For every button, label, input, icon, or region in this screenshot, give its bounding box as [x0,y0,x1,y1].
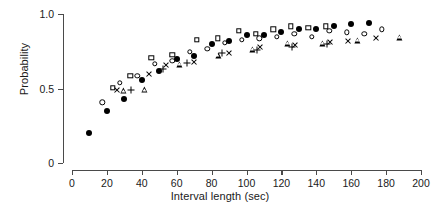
data-point-filled-circle [104,108,110,114]
x-tick [386,170,387,175]
x-tick [142,170,143,175]
data-point-filled-circle [209,41,215,47]
data-point-open-square [288,24,293,29]
data-point-cross [226,49,233,56]
data-point-plus [159,66,166,73]
data-point-open-square [236,28,241,33]
data-point-filled-circle [226,38,232,44]
y-tick [58,89,63,90]
data-point-triangle [121,88,127,94]
data-point-open-circle [239,37,244,42]
x-tick [316,170,317,175]
data-point-open-circle [204,46,209,51]
y-axis-line [63,14,64,163]
data-point-filled-circle [296,26,302,32]
scatter-plot-figure: Probability Interval length (sec) 00.51.… [0,0,440,210]
data-point-filled-circle [313,26,319,32]
data-point-filled-circle [244,32,250,38]
data-point-open-circle [309,34,314,39]
data-point-open-square [170,52,175,57]
y-tick [58,14,63,15]
data-point-open-circle [222,40,227,45]
x-tick [351,170,352,175]
triangle-inner [122,89,126,92]
x-tick [72,170,73,175]
triangle-inner [355,39,359,42]
data-point-open-circle [152,61,157,66]
data-point-triangle [355,37,361,43]
x-tick [247,170,248,175]
data-point-open-square [128,73,133,78]
y-tick-label: 1.0 [14,8,54,20]
x-tick [421,170,422,175]
data-point-filled-circle [139,77,145,83]
data-point-plus [253,46,260,53]
data-point-open-circle [274,34,279,39]
data-point-plus [219,49,226,56]
y-tick-label: 0 [14,157,54,169]
data-point-filled-circle [86,130,92,136]
x-tick [212,170,213,175]
triangle-inner [397,36,401,39]
data-point-plus [288,43,295,50]
data-point-open-circle [100,100,105,105]
x-tick [107,170,108,175]
data-point-plus [323,40,330,47]
data-point-open-square [215,36,220,41]
y-tick-label: 0.5 [14,83,54,95]
data-point-filled-circle [331,23,337,29]
data-point-cross [344,37,351,44]
data-point-cross [145,70,152,77]
data-point-open-circle [292,31,297,36]
data-point-triangle [142,86,148,92]
data-point-open-square [149,55,154,60]
data-point-open-square [194,37,199,42]
data-point-open-circle [344,30,349,35]
data-point-open-square [271,27,276,32]
data-point-plus [128,86,135,93]
data-point-filled-circle [261,32,267,38]
data-point-open-square [323,24,328,29]
data-point-filled-circle [278,29,284,35]
x-tick-label: 200 [401,177,440,189]
data-point-open-circle [170,58,175,63]
triangle-inner [177,63,181,66]
data-point-cross [191,58,198,65]
data-point-triangle [177,61,183,67]
data-point-filled-circle [121,96,127,102]
y-tick [58,163,63,164]
data-point-plus [184,60,191,67]
data-point-filled-circle [348,21,354,27]
data-point-cross [372,34,379,41]
data-point-open-square [253,31,258,36]
x-tick [281,170,282,175]
y-axis-label: Probability [18,9,30,129]
triangle-inner [142,88,146,91]
data-point-open-circle [361,31,366,36]
x-axis-label: Interval length (sec) [0,190,440,202]
data-point-filled-circle [366,20,372,26]
x-tick [177,170,178,175]
data-point-open-circle [379,27,384,32]
data-point-open-circle [117,80,122,85]
data-point-open-square [306,25,311,30]
data-point-triangle [396,34,402,40]
data-point-cross [114,86,121,93]
